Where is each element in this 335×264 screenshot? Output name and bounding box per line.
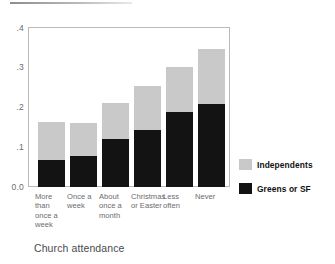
x-tick-label-line: Less xyxy=(163,192,197,201)
y-tick-label-0: .4 xyxy=(17,24,25,33)
bar-segment-independents xyxy=(134,86,161,130)
y-axis: .4 .3 .2 .1 0.0 xyxy=(0,20,28,195)
y-tick-label-2: .2 xyxy=(17,103,25,112)
legend-entry-independents: Independents xyxy=(239,159,335,170)
bar-group xyxy=(198,49,225,187)
bar-segment-independents xyxy=(70,123,97,157)
x-tick-label-line: once a xyxy=(99,201,133,210)
legend-swatch-independents xyxy=(239,159,252,170)
x-tick-label: Never xyxy=(195,192,229,201)
bar-segment-independents xyxy=(38,122,65,160)
bar-segment-greens-or-sf xyxy=(134,130,161,187)
x-tick-label: Morethanonce aweek xyxy=(35,192,69,230)
x-tick-label: Once aweek xyxy=(67,192,101,211)
x-tick-label: Aboutonce amonth xyxy=(99,192,133,220)
x-tick-label-line: Once a xyxy=(67,192,101,201)
x-axis-title: Church attendance xyxy=(34,242,124,254)
legend-entry-greens-or-sf: Greens or SF xyxy=(239,183,335,194)
x-tick-label-line: than xyxy=(35,201,69,210)
x-tick-label: Lessoften xyxy=(163,192,197,211)
bar-segment-greens-or-sf xyxy=(166,112,193,187)
y-tick-label-3: .1 xyxy=(17,143,25,152)
bar-segment-independents xyxy=(102,103,129,139)
legend-swatch-greens-or-sf xyxy=(239,183,252,194)
bar-group xyxy=(70,123,97,187)
bar-group xyxy=(166,67,193,187)
x-tick-label-line: often xyxy=(163,201,197,210)
x-tick-label-line: week xyxy=(67,201,101,210)
plot-area xyxy=(29,28,229,187)
bar-group xyxy=(102,103,129,187)
y-tick-label-1: .3 xyxy=(17,63,25,72)
x-tick-label-line: month xyxy=(99,211,133,220)
x-tick-label-line: Christmas xyxy=(131,192,165,201)
bar-segment-independents xyxy=(166,67,193,113)
chart-figure: .4 .3 .2 .1 0.0 Morethanonce aweekOnce a… xyxy=(0,0,335,264)
x-tick-label-line: Never xyxy=(195,192,229,201)
x-tick-label-line: once a xyxy=(35,211,69,220)
bar-segment-greens-or-sf xyxy=(198,104,225,187)
bar-segment-greens-or-sf xyxy=(38,160,65,187)
x-tick-label-line: or Easter xyxy=(131,201,165,210)
x-tick-label: Christmasor Easter xyxy=(131,192,165,211)
bar-group xyxy=(38,122,65,187)
bar-segment-independents xyxy=(198,49,225,104)
chart-legend: Independents Greens or SF xyxy=(239,159,335,207)
legend-label-independents: Independents xyxy=(257,160,313,170)
x-tick-label-line: About xyxy=(99,192,133,201)
x-tick-label-line: More xyxy=(35,192,69,201)
bar-segment-greens-or-sf xyxy=(70,156,97,187)
bar-group xyxy=(134,86,161,187)
x-tick-labels: Morethanonce aweekOnce aweekAboutonce am… xyxy=(29,192,234,237)
x-tick-label-line: week xyxy=(35,220,69,229)
y-tick-label-4: 0.0 xyxy=(12,183,24,192)
bar-segment-greens-or-sf xyxy=(102,139,129,187)
legend-label-greens-or-sf: Greens or SF xyxy=(257,184,311,194)
